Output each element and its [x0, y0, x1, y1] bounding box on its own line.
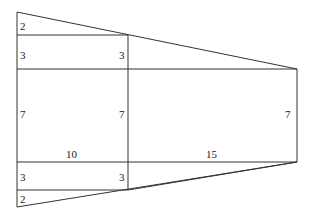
label-middle-right: 7 — [119, 108, 125, 120]
label-lower-rect-left: 3 — [20, 171, 26, 183]
label-width-right: 15 — [206, 148, 218, 160]
label-upper-rect-right: 3 — [119, 49, 125, 61]
label-bottom-triangle: 2 — [20, 193, 26, 205]
label-right-side: 7 — [285, 108, 291, 120]
label-upper-rect-left: 3 — [20, 49, 26, 61]
geometry-diagram: 2 3 3 7 7 7 10 15 3 3 2 — [0, 0, 312, 215]
outer-trapezoid — [17, 12, 297, 207]
label-width-left: 10 — [66, 148, 78, 160]
lower-slant-line — [128, 162, 297, 190]
label-lower-rect-right: 3 — [119, 171, 125, 183]
label-top-triangle: 2 — [20, 20, 26, 32]
label-middle-left: 7 — [20, 108, 26, 120]
